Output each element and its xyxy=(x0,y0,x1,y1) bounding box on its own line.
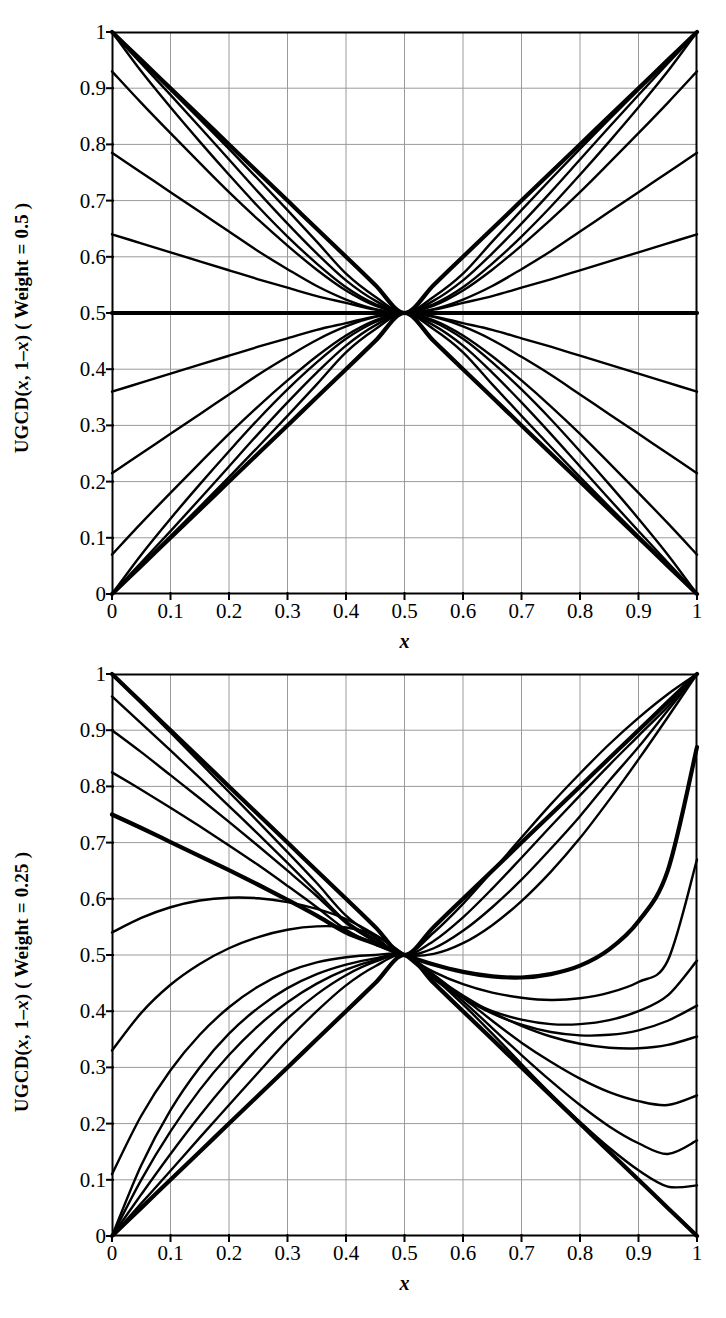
y-tick-label: 1 xyxy=(46,664,106,685)
x-tick-labels-top: 00.10.20.30.40.50.60.70.80.91 xyxy=(112,601,697,629)
y-tick-label: 0.9 xyxy=(46,720,106,741)
x-tick-label: 0.6 xyxy=(433,1243,493,1264)
x-tick-label: 0.4 xyxy=(316,601,376,622)
y-tick-label: 0.8 xyxy=(46,776,106,797)
y-tick-label: 0.7 xyxy=(46,190,106,211)
y-tick-label: 0.6 xyxy=(46,888,106,909)
y-tick-label: 0.2 xyxy=(46,1113,106,1134)
y-axis-label-var-b-bottom: x xyxy=(11,1000,32,1010)
x-tick-label: 0.5 xyxy=(375,1243,435,1264)
y-tick-label: 0.4 xyxy=(46,1001,106,1022)
y-axis-label-text-bottom: UGCD( xyxy=(11,1048,32,1111)
y-tick-label: 0.1 xyxy=(46,527,106,548)
y-axis-label-top: UGCD(x, 1–x) ( Weight = 0.5 ) xyxy=(0,0,44,655)
y-tick-label: 0.9 xyxy=(46,78,106,99)
figure-weight-0.25: UGCD(x, 1–x) ( Weight = 0.25 ) 00.10.20.… xyxy=(0,645,726,1318)
y-axis-label-suffix-top: ) ( Weight = 0.5 ) xyxy=(11,202,32,341)
y-tick-label: 0.5 xyxy=(46,945,106,966)
x-tick-label: 0.7 xyxy=(492,1243,552,1264)
y-axis-label-var-a-bottom: x xyxy=(11,1039,32,1049)
x-tick-label: 0.2 xyxy=(199,601,259,622)
plot-svg-bottom xyxy=(112,674,697,1236)
x-tick-label: 0.4 xyxy=(316,1243,376,1264)
x-tick-label: 0.1 xyxy=(141,601,201,622)
y-tick-label: 0.3 xyxy=(46,1057,106,1078)
x-tick-label: 0.2 xyxy=(199,1243,259,1264)
y-tick-labels-top: 00.10.20.30.40.50.60.70.80.91 xyxy=(42,32,106,594)
y-axis-label-suffix-bottom: ) ( Weight = 0.25 ) xyxy=(11,851,32,999)
x-axis-label-bottom: x xyxy=(112,1272,697,1295)
figure-page: UGCD(x, 1–x) ( Weight = 0.5 ) 00.10.20.3… xyxy=(0,0,726,1318)
y-axis-label-comma-top: , 1– xyxy=(11,351,32,380)
x-tick-label: 0.1 xyxy=(141,1243,201,1264)
y-tick-label: 1 xyxy=(46,22,106,43)
plot-area-bottom xyxy=(112,674,697,1236)
x-tick-label: 0.9 xyxy=(609,1243,669,1264)
x-tick-label: 0.3 xyxy=(258,601,318,622)
x-tick-label: 0.8 xyxy=(550,1243,610,1264)
y-axis-label-bottom: UGCD(x, 1–x) ( Weight = 0.25 ) xyxy=(0,645,44,1318)
plot-area-top xyxy=(112,32,697,594)
x-tick-label: 0.5 xyxy=(375,601,435,622)
x-tick-label: 0.8 xyxy=(550,601,610,622)
y-axis-label-comma-bottom: , 1– xyxy=(11,1009,32,1038)
x-tick-label: 0.7 xyxy=(492,601,552,622)
y-tick-label: 0.8 xyxy=(46,134,106,155)
y-tick-label: 0.5 xyxy=(46,303,106,324)
x-tick-label: 1 xyxy=(667,601,726,622)
figure-weight-0.5: UGCD(x, 1–x) ( Weight = 0.5 ) 00.10.20.3… xyxy=(0,0,726,655)
y-axis-label-var-b-top: x xyxy=(11,341,32,351)
y-tick-label: 0.7 xyxy=(46,832,106,853)
x-tick-labels-bottom: 00.10.20.30.40.50.60.70.80.91 xyxy=(112,1243,697,1271)
x-tick-label: 0 xyxy=(82,1243,142,1264)
y-tick-label: 0.6 xyxy=(46,246,106,267)
y-tick-label: 0.4 xyxy=(46,359,106,380)
x-tick-label: 0.9 xyxy=(609,601,669,622)
y-tick-label: 0.1 xyxy=(46,1169,106,1190)
x-tick-label: 1 xyxy=(667,1243,726,1264)
x-tick-label: 0.3 xyxy=(258,1243,318,1264)
x-tick-label: 0 xyxy=(82,601,142,622)
y-axis-label-text-top: UGCD( xyxy=(11,390,32,453)
y-tick-label: 0.3 xyxy=(46,415,106,436)
y-tick-label: 0.2 xyxy=(46,471,106,492)
y-tick-labels-bottom: 00.10.20.30.40.50.60.70.80.91 xyxy=(42,674,106,1236)
y-axis-label-var-a-top: x xyxy=(11,380,32,390)
x-tick-label: 0.6 xyxy=(433,601,493,622)
plot-svg-top xyxy=(112,32,697,594)
